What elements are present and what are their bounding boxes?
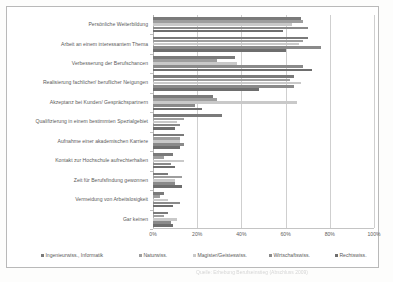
bar-group	[153, 112, 374, 131]
bar-group	[153, 34, 374, 53]
bar	[153, 127, 175, 130]
bar-group	[153, 93, 374, 112]
chart-frame: Persönliche WeiterbildungArbeit an einem…	[6, 6, 379, 268]
legend-item[interactable]: Rechtswiss.	[335, 253, 367, 258]
bar	[153, 205, 173, 208]
bar	[153, 146, 180, 149]
category-label: Zeit für Berufsfindung gewonnen	[74, 178, 148, 183]
legend-item[interactable]: Ingenieurwiss., Informatik	[41, 253, 103, 258]
legend-label: Ingenieurwiss., Informatik	[45, 253, 103, 258]
x-tick-label: 40%	[236, 231, 246, 237]
category-label: Kontakt zur Hochschule aufrechterhalten	[55, 158, 148, 163]
category-label: Qualifizierung in einem bestimmten Spezi…	[35, 119, 148, 124]
x-tick-label: 100%	[367, 231, 380, 237]
x-axis-tick-labels: 0%20%40%60%80%100%	[153, 231, 374, 241]
x-tick-label: 0%	[149, 231, 156, 237]
gridline-100	[374, 15, 375, 228]
bar-group	[153, 73, 374, 92]
chart-legend: Ingenieurwiss., InformatikNaturwiss.Magi…	[15, 253, 372, 265]
bar	[153, 69, 312, 72]
category-label: Realisierung fachlicher/ beruflicher Nei…	[43, 80, 148, 85]
x-tick-label: 20%	[192, 231, 202, 237]
bar	[153, 30, 283, 33]
legend-label: Rechtswiss.	[339, 253, 366, 258]
category-label: Verbesserung der Berufschancen	[72, 61, 148, 66]
legend-item[interactable]: Wirtschaftswiss.	[269, 253, 310, 258]
bar-group	[153, 54, 374, 73]
legend-swatch-icon	[335, 254, 338, 257]
legend-swatch-icon	[269, 254, 272, 257]
category-axis-labels: Persönliche WeiterbildungArbeit an einem…	[7, 15, 151, 229]
figure-caption: Quelle: Erhebung Berufseinstieg (Abschlu…	[196, 270, 391, 280]
category-label: Arbeit an einem interessantem Thema	[61, 42, 148, 47]
bar	[153, 49, 286, 52]
x-tick-label: 60%	[280, 231, 290, 237]
scanned-page: Persönliche WeiterbildungArbeit an einem…	[0, 0, 393, 282]
bars-canvas	[153, 15, 374, 229]
bar-group	[153, 15, 374, 34]
bar-group	[153, 210, 374, 229]
legend-label: Wirtschaftswiss.	[273, 253, 310, 258]
bar-group	[153, 190, 374, 209]
x-tick-label: 80%	[325, 231, 335, 237]
bar	[153, 88, 259, 91]
bar-group	[153, 132, 374, 151]
bar	[153, 224, 173, 227]
legend-item[interactable]: Magister/Geisteswiss.	[193, 253, 247, 258]
figure-caption-text: Quelle: Erhebung Berufseinstieg (Abschlu…	[196, 270, 391, 275]
category-label: Persönliche Weiterbildung	[88, 22, 148, 27]
category-tick	[150, 229, 153, 230]
bar-group	[153, 171, 374, 190]
chart-plot-area: Persönliche WeiterbildungArbeit an einem…	[7, 7, 380, 269]
category-label: Gar keinen	[123, 217, 148, 222]
bar	[153, 185, 182, 188]
category-label: Vermeidung von Arbeitslosigkeit	[75, 197, 148, 202]
legend-swatch-icon	[193, 254, 196, 257]
bar	[153, 166, 175, 169]
legend-swatch-icon	[41, 254, 44, 257]
bar	[153, 108, 202, 111]
bar-group	[153, 151, 374, 170]
legend-label: Naturwiss.	[143, 253, 167, 258]
legend-label: Magister/Geisteswiss.	[197, 253, 247, 258]
category-label: Aufnahme einer akademischen Karriere	[58, 139, 148, 144]
category-label: Akzeptanz bei Kunden/ Gesprächspartnern	[50, 100, 148, 105]
legend-swatch-icon	[139, 254, 142, 257]
legend-item[interactable]: Naturwiss.	[139, 253, 167, 258]
